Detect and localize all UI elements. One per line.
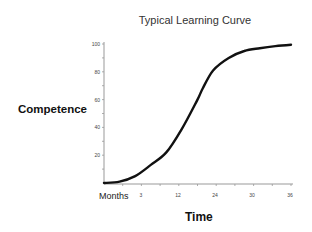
y-tick-labels: 20406080100 <box>92 41 101 158</box>
y-tick-label: 60 <box>94 97 100 103</box>
plot-area: 20406080100 312243036 <box>0 0 312 232</box>
y-tick-label: 80 <box>94 69 100 75</box>
x-tick-label: 12 <box>175 192 181 198</box>
y-tick-label: 20 <box>94 152 100 158</box>
y-tick-label: 40 <box>94 124 100 130</box>
x-tick-label: 24 <box>212 192 218 198</box>
x-tick-label: 3 <box>140 192 143 198</box>
learning-curve-line <box>104 45 291 183</box>
x-tick-label: 36 <box>287 192 293 198</box>
y-tick-label: 100 <box>92 41 101 47</box>
x-tick-label: 30 <box>249 192 255 198</box>
x-tick-labels: 312243036 <box>140 192 293 198</box>
